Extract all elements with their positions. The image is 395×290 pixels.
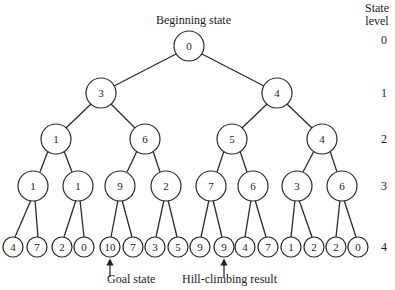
search-tree-diagram: 0 3 4 1 6 5 4 1 1 9 2 7 (0, 0, 395, 290)
state-level-header-line2: level (365, 15, 389, 28)
tree-leaf: 4 (3, 237, 23, 257)
svg-text:0: 0 (81, 241, 87, 253)
tree-leaf: 7 (258, 237, 278, 257)
svg-text:4: 4 (319, 133, 325, 145)
tree-node-l2: 1 (41, 124, 71, 154)
svg-text:6: 6 (142, 133, 148, 145)
svg-text:9: 9 (117, 180, 123, 192)
tree-node-l2: 5 (217, 124, 247, 154)
tree-node-l1: 4 (262, 78, 292, 108)
tree-node-l3: 3 (282, 171, 312, 201)
tree-leaf: 5 (168, 237, 188, 257)
tree-node-l3: 9 (105, 171, 135, 201)
svg-text:0: 0 (186, 40, 192, 52)
tree-leaf: 2 (304, 237, 324, 257)
svg-text:7: 7 (265, 241, 271, 253)
svg-text:7: 7 (208, 180, 214, 192)
tree-node-l2: 4 (307, 124, 337, 154)
tree-node-l2: 6 (130, 124, 160, 154)
level-label-4: 4 (381, 241, 387, 254)
svg-text:4: 4 (242, 241, 248, 253)
tree-leaf-goal-state: 10 (100, 237, 120, 257)
svg-text:2: 2 (311, 241, 317, 253)
tree-leaf-hill-climbing-result: 9 (214, 237, 234, 257)
svg-text:5: 5 (175, 241, 181, 253)
tree-node-l3: 6 (238, 171, 268, 201)
svg-text:4: 4 (274, 87, 280, 99)
beginning-state-label: Beginning state (156, 14, 231, 27)
level-label-2: 2 (381, 133, 387, 146)
level-label-3: 3 (381, 180, 387, 193)
tree-node-l3: 7 (196, 171, 226, 201)
goal-state-label: Goal state (107, 273, 155, 286)
svg-text:10: 10 (105, 241, 117, 253)
level-label-1: 1 (381, 87, 387, 100)
svg-text:6: 6 (339, 180, 345, 192)
hill-climbing-result-label: Hill-climbing result (182, 273, 277, 286)
svg-text:6: 6 (250, 180, 256, 192)
svg-text:2: 2 (59, 241, 65, 253)
tree-leaf: 0 (74, 237, 94, 257)
tree-leaf: 0 (348, 237, 368, 257)
level-label-0: 0 (381, 34, 387, 47)
tree-leaf: 2 (326, 237, 346, 257)
svg-text:3: 3 (98, 87, 104, 99)
svg-text:2: 2 (333, 241, 339, 253)
svg-text:9: 9 (197, 241, 203, 253)
tree-leaf: 3 (145, 237, 165, 257)
svg-text:1: 1 (30, 180, 36, 192)
svg-text:5: 5 (229, 133, 235, 145)
tree-leaf: 9 (190, 237, 210, 257)
tree-node-l3: 6 (327, 171, 357, 201)
svg-text:0: 0 (355, 241, 361, 253)
svg-text:2: 2 (163, 180, 169, 192)
state-level-header: State level (365, 2, 389, 28)
tree-leaf: 7 (27, 237, 47, 257)
svg-text:9: 9 (221, 241, 227, 253)
svg-text:1: 1 (75, 180, 81, 192)
tree-node-l3: 1 (18, 171, 48, 201)
svg-text:7: 7 (130, 241, 136, 253)
tree-leaf: 2 (52, 237, 72, 257)
tree-leaf: 7 (123, 237, 143, 257)
svg-text:3: 3 (294, 180, 300, 192)
svg-text:1: 1 (288, 241, 294, 253)
tree-node-l1: 3 (86, 78, 116, 108)
tree-node-l3: 2 (151, 171, 181, 201)
svg-text:4: 4 (10, 241, 16, 253)
tree-leaf: 4 (235, 237, 255, 257)
svg-text:3: 3 (152, 241, 158, 253)
tree-node-l3: 1 (63, 171, 93, 201)
tree-node-root: 0 (174, 31, 204, 61)
svg-text:1: 1 (53, 133, 59, 145)
tree-leaf: 1 (281, 237, 301, 257)
svg-text:7: 7 (34, 241, 40, 253)
